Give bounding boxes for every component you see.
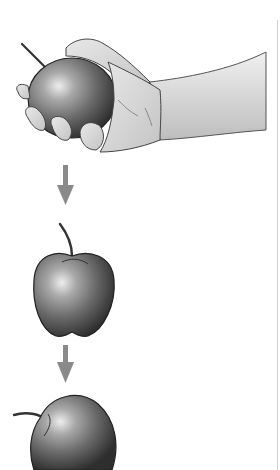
- hand-with-apple-icon: [17, 39, 266, 152]
- diagram-frame: [0, 0, 280, 470]
- arrow-down-icon: [57, 345, 74, 383]
- arrow-down-icon: [57, 165, 74, 205]
- apple-fall-illustration: [0, 0, 280, 470]
- apple-tilted-icon: [14, 396, 116, 470]
- apple-icon: [34, 224, 115, 337]
